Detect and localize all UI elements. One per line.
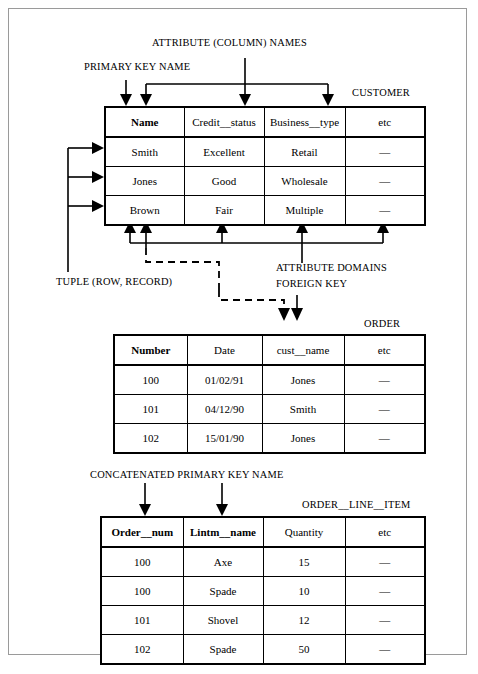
table-row: SmithExcellentRetail— xyxy=(105,137,425,167)
table-cell: 101 xyxy=(101,606,183,635)
table-cell: — xyxy=(344,395,425,424)
diagram-stage: ATTRIBUTE (COLUMN) NAMES PRIMARY KEY NAM… xyxy=(0,0,478,674)
table-cell: Good xyxy=(184,167,264,196)
caption-attribute-column-names: ATTRIBUTE (COLUMN) NAMES xyxy=(152,38,307,48)
column-header: Order__num xyxy=(101,517,183,547)
column-header: Lintm__name xyxy=(183,517,263,547)
table-cell: Axe xyxy=(183,547,263,577)
column-header: Number xyxy=(114,335,187,365)
column-header: etc xyxy=(344,335,425,365)
table-cell: 15 xyxy=(263,547,345,577)
column-header: etc xyxy=(345,107,425,137)
table-cell: Fair xyxy=(184,196,264,226)
table-order: NumberDatecust__nameetc10001/02/91Jones—… xyxy=(113,334,426,454)
table-cell: Smith xyxy=(105,137,184,167)
table-title-order-line-item: ORDER__LINE__ITEM xyxy=(302,500,410,510)
caption-tuple: TUPLE (ROW, RECORD) xyxy=(56,277,172,287)
caption-attribute-domains: ATTRIBUTE DOMAINS xyxy=(276,263,387,273)
table-cell: 15/01/90 xyxy=(187,424,262,454)
table-row: 10104/12/90Smith— xyxy=(114,395,425,424)
table-header-row: NumberDatecust__nameetc xyxy=(114,335,425,365)
table-cell: — xyxy=(345,635,425,665)
table-order-line-item: Order__numLintm__nameQuantityetc100Axe15… xyxy=(100,516,426,665)
column-header: Quantity xyxy=(263,517,345,547)
table-cell: Wholesale xyxy=(264,167,345,196)
column-header: Credit__status xyxy=(184,107,264,137)
table-cell: — xyxy=(344,365,425,395)
column-header: Name xyxy=(105,107,184,137)
table-customer: NameCredit__statusBusiness__typeetcSmith… xyxy=(104,106,426,226)
table-cell: 50 xyxy=(263,635,345,665)
table-cell: 04/12/90 xyxy=(187,395,262,424)
table-header-row: NameCredit__statusBusiness__typeetc xyxy=(105,107,425,137)
table-row: 100Axe15— xyxy=(101,547,425,577)
caption-foreign-key: FOREIGN KEY xyxy=(276,279,347,289)
table-cell: Retail xyxy=(264,137,345,167)
table-cell: 102 xyxy=(101,635,183,665)
table-cell: — xyxy=(345,577,425,606)
column-header: Business__type xyxy=(264,107,345,137)
table-row: JonesGoodWholesale— xyxy=(105,167,425,196)
table-cell: 100 xyxy=(114,365,187,395)
primary-key-name-connector xyxy=(120,80,132,106)
table-cell: 01/02/91 xyxy=(187,365,262,395)
foreign-key-connector xyxy=(140,221,290,321)
table-cell: — xyxy=(345,196,425,226)
table-cell: 100 xyxy=(101,547,183,577)
table-cell: Excellent xyxy=(184,137,264,167)
table-cell: Spade xyxy=(183,635,263,665)
table-row: 100Spade10— xyxy=(101,577,425,606)
table-header-row: Order__numLintm__nameQuantityetc xyxy=(101,517,425,547)
table-row: 101Shovel12— xyxy=(101,606,425,635)
table-cell: 101 xyxy=(114,395,187,424)
table-cell: — xyxy=(345,167,425,196)
table-cell: Jones xyxy=(262,424,344,454)
table-order-body: NumberDatecust__nameetc10001/02/91Jones—… xyxy=(114,335,425,453)
table-order-line-item-body: Order__numLintm__nameQuantityetc100Axe15… xyxy=(101,517,425,664)
table-cell: — xyxy=(345,606,425,635)
table-customer-body: NameCredit__statusBusiness__typeetcSmith… xyxy=(105,107,425,225)
table-title-customer: CUSTOMER xyxy=(352,88,410,98)
table-cell: 100 xyxy=(101,577,183,606)
table-title-order: ORDER xyxy=(364,319,400,329)
column-header: cust__name xyxy=(262,335,344,365)
table-cell: — xyxy=(345,137,425,167)
table-cell: Smith xyxy=(262,395,344,424)
table-row: 10001/02/91Jones— xyxy=(114,365,425,395)
caption-concatenated-primary-key-name: CONCATENATED PRIMARY KEY NAME xyxy=(90,470,284,480)
tuple-connector xyxy=(68,142,104,272)
table-cell: Jones xyxy=(262,365,344,395)
table-cell: — xyxy=(344,424,425,454)
table-row: 10215/01/90Jones— xyxy=(114,424,425,454)
concatenated-key-connector xyxy=(139,483,228,516)
caption-primary-key-name: PRIMARY KEY NAME xyxy=(84,62,190,72)
table-cell: Shovel xyxy=(183,606,263,635)
table-cell: Jones xyxy=(105,167,184,196)
table-cell: — xyxy=(345,547,425,577)
table-row: BrownFairMultiple— xyxy=(105,196,425,226)
table-cell: 10 xyxy=(263,577,345,606)
table-cell: Spade xyxy=(183,577,263,606)
column-header: etc xyxy=(345,517,425,547)
table-cell: Brown xyxy=(105,196,184,226)
table-cell: 12 xyxy=(263,606,345,635)
table-cell: 102 xyxy=(114,424,187,454)
table-cell: Multiple xyxy=(264,196,345,226)
column-header: Date xyxy=(187,335,262,365)
table-row: 102Spade50— xyxy=(101,635,425,665)
